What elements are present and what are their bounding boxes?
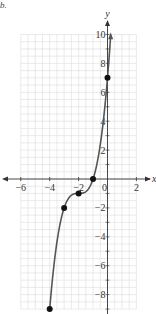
data-point	[105, 75, 111, 81]
axes: xy−6−4−202−8−6−4−2246810	[2, 8, 156, 314]
y-tick-label: 8	[101, 58, 106, 69]
x-axis-label: x	[151, 173, 156, 184]
curve-arrow-icon	[108, 32, 113, 39]
y-tick-label: −8	[95, 289, 106, 300]
data-point	[47, 306, 53, 312]
y-tick-label: −2	[95, 202, 106, 213]
x-tick-label: −6	[15, 182, 26, 193]
grid	[21, 35, 137, 310]
y-tick-label: −6	[95, 260, 106, 271]
x-tick-label: −4	[44, 182, 55, 193]
x-tick-label: 2	[134, 182, 139, 193]
x-axis-left-arrow-icon	[2, 177, 8, 182]
function-graph: xy−6−4−202−8−6−4−2246810	[0, 0, 156, 314]
y-tick-label: 2	[101, 145, 106, 156]
x-tick-label: 0	[102, 182, 107, 193]
data-point	[61, 205, 67, 211]
y-tick-label: 6	[101, 87, 106, 98]
data-point	[76, 190, 82, 196]
y-tick-label: −4	[95, 231, 106, 242]
y-axis-label: y	[104, 8, 110, 19]
y-axis-arrow-icon	[105, 20, 110, 26]
x-axis-right-arrow-icon	[145, 177, 151, 182]
y-tick-label: 10	[96, 29, 106, 40]
data-point	[90, 176, 96, 182]
